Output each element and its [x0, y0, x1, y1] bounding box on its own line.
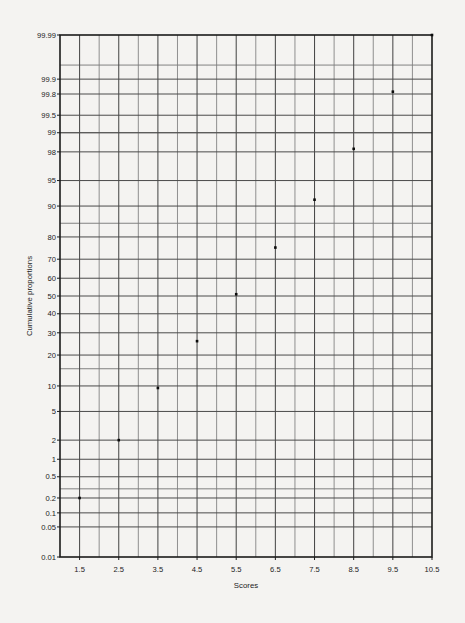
y-tick-label: 80	[48, 233, 56, 242]
x-tick-label: 7.5	[309, 565, 320, 574]
x-tick-label: 10.5	[425, 565, 440, 574]
x-tick-label: 3.5	[153, 565, 164, 574]
data-point	[392, 90, 395, 93]
y-tick-label: 0.2	[45, 494, 56, 503]
x-tick-label: 5.5	[231, 565, 242, 574]
y-tick-label: 99	[48, 128, 56, 137]
data-point	[431, 34, 434, 37]
data-point	[235, 293, 238, 296]
normal-probability-plot-figure: 99.9999.999.899.599989590807060504030201…	[0, 0, 465, 623]
y-tick-label: 98	[48, 148, 56, 157]
y-tick-label: 99.99	[37, 31, 56, 40]
x-tick-label: 4.5	[192, 565, 203, 574]
y-tick-label: 99.5	[41, 111, 56, 120]
y-tick-label: 1	[52, 455, 56, 464]
y-tick-label: 5	[52, 407, 56, 416]
y-tick-label: 0.01	[41, 553, 56, 562]
y-tick-label: 60	[48, 274, 56, 283]
y-tick-label: 95	[48, 176, 56, 185]
y-tick-label: 2	[52, 436, 56, 445]
data-point	[196, 340, 199, 343]
y-tick-label: 90	[48, 202, 56, 211]
x-tick-label: 2.5	[113, 565, 124, 574]
y-axis-title: Cumulative proportions	[25, 256, 34, 336]
y-tick-label: 99.8	[41, 90, 56, 99]
plot-canvas: 99.9999.999.899.599989590807060504030201…	[0, 0, 465, 623]
x-tick-label: 8.5	[348, 565, 359, 574]
y-tick-label: 50	[48, 292, 56, 301]
y-tick-label: 40	[48, 309, 56, 318]
y-tick-label: 70	[48, 255, 56, 264]
y-tick-label: 0.5	[45, 472, 56, 481]
y-tick-label: 0.05	[41, 523, 56, 532]
y-tick-label: 30	[48, 329, 56, 338]
data-point	[274, 246, 277, 249]
x-tick-label: 6.5	[270, 565, 281, 574]
y-tick-label: 0.1	[45, 509, 56, 518]
figure-background	[0, 0, 465, 623]
x-tick-label: 1.5	[74, 565, 85, 574]
data-point	[117, 439, 120, 442]
data-point	[157, 387, 160, 390]
data-point	[352, 148, 355, 151]
y-tick-label: 20	[48, 351, 56, 360]
data-point	[313, 198, 316, 201]
y-tick-label: 10	[48, 382, 56, 391]
y-tick-label: 99.9	[41, 75, 56, 84]
x-tick-label: 9.5	[388, 565, 399, 574]
x-axis-title: Scores	[234, 581, 258, 590]
data-point	[78, 497, 81, 500]
